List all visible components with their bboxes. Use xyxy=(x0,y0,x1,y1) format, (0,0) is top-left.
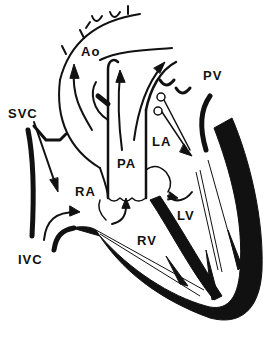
label-left-atrium: LA xyxy=(152,135,171,148)
arrow-aorta xyxy=(74,70,92,130)
label-superior-vena-cava: SVC xyxy=(8,107,38,120)
heart-diagram xyxy=(0,0,276,343)
label-left-ventricle: LV xyxy=(177,209,195,222)
label-pulmonary-artery: PA xyxy=(117,157,136,170)
label-right-atrium: RA xyxy=(75,185,96,198)
label-aorta: Ao xyxy=(81,45,100,58)
label-inferior-vena-cava: IVC xyxy=(18,253,43,266)
label-pulmonary-veins: PV xyxy=(203,69,222,82)
label-right-ventricle: RV xyxy=(137,234,157,247)
